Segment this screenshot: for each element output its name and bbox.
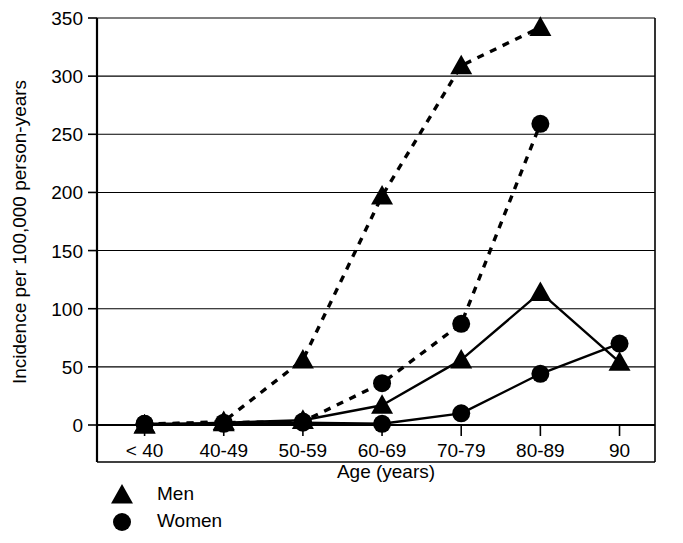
datapoint-upper-women-3	[373, 374, 391, 392]
datapoint-lower-women-0	[136, 415, 154, 433]
y-tick-label-100: 100	[51, 299, 83, 320]
datapoint-upper-women-4	[452, 315, 470, 333]
x-tick-label-3: 60-69	[358, 440, 407, 461]
datapoint-upper-women-5	[531, 115, 549, 133]
y-axis-title: Incidence per 100,000 person-years	[9, 80, 30, 384]
y-tick-label-0: 0	[72, 415, 83, 436]
x-axis-tick-labels-group: < 4040-4950-5960-6970-7980-8990	[126, 440, 630, 461]
y-tick-label-50: 50	[62, 357, 83, 378]
datapoint-lower-women-4	[452, 404, 470, 422]
x-tick-label-4: 70-79	[437, 440, 486, 461]
x-axis-title: Age (years)	[337, 461, 435, 482]
x-tick-label-1: 40-49	[199, 440, 248, 461]
legend-label-men: Men	[157, 483, 194, 504]
legend-label-women: Women	[157, 510, 222, 531]
datapoint-lower-women-3	[373, 415, 391, 433]
y-tick-label-200: 200	[51, 182, 83, 203]
figure-container: 050100150200250300350 < 4040-4950-5960-6…	[0, 0, 683, 543]
datapoint-lower-women-2	[294, 414, 312, 432]
y-tick-label-250: 250	[51, 124, 83, 145]
datapoint-lower-women-1	[215, 415, 233, 433]
legend-marker-women	[113, 513, 131, 531]
y-tick-label-350: 350	[51, 8, 83, 29]
x-tick-label-6: 90	[609, 440, 630, 461]
x-tick-label-5: 80-89	[516, 440, 565, 461]
x-tick-label-2: 50-59	[279, 440, 328, 461]
y-tick-label-150: 150	[51, 241, 83, 262]
datapoint-lower-women-6	[611, 335, 629, 353]
x-tick-label-0: < 40	[126, 440, 164, 461]
incidence-by-age-line-chart: 050100150200250300350 < 4040-4950-5960-6…	[0, 0, 683, 543]
datapoint-lower-women-5	[531, 365, 549, 383]
y-tick-label-300: 300	[51, 66, 83, 87]
